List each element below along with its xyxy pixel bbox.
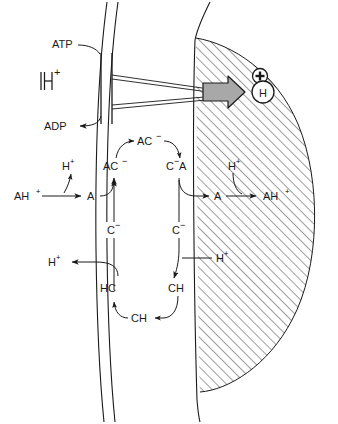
inside-proton-charge: + [236, 157, 241, 166]
carrier-left-label: AC − [103, 156, 127, 172]
released-proton-arrow-left [64, 174, 71, 193]
outside-a-label: A [87, 190, 95, 202]
c-minus-right-text: C [172, 224, 180, 236]
bottom-arc-left [114, 302, 128, 318]
hc-left-label: HC [100, 282, 116, 294]
interior-proton-symbol: H [252, 81, 274, 103]
interior-proton-letter: H [259, 87, 267, 99]
c-minus-left-charge: − [115, 220, 120, 230]
bottom-arc-right [163, 296, 178, 318]
ahplus-charge: + [36, 187, 41, 196]
pumped-proton-charge: + [54, 66, 60, 78]
ac-top-charge: − [156, 131, 161, 141]
c-minus-left-text: C [107, 224, 115, 236]
outside-released-proton-label: H + [62, 157, 75, 172]
outside-lower-proton-label: H + [48, 253, 61, 268]
outside-substrate-label: AH + [14, 187, 41, 202]
membrane-transport-diagram: ATP ADP + H AH + A [0, 0, 338, 424]
c-right-text: C [166, 160, 174, 172]
ahplus-text: AH [14, 190, 29, 202]
atp-input-curve [78, 45, 100, 54]
ac-left-charge: − [122, 156, 127, 166]
ac-left-text: AC [103, 160, 118, 172]
adp-label: ADP [44, 120, 67, 132]
c-right-suffix: A [179, 160, 187, 172]
atp-label: ATP [52, 38, 73, 50]
carrier-right-label: C − A [166, 156, 187, 172]
inside-ahplus-text: AH [263, 190, 278, 202]
released-proton-text: H [62, 160, 70, 172]
ch-right-label: CH [168, 282, 184, 294]
diagram-canvas: ATP ADP + H AH + A [0, 0, 338, 424]
lower-taken-proton-charge: + [224, 249, 229, 258]
lower-released-proton-text: H [48, 256, 56, 268]
c-minus-right-charge: − [180, 220, 185, 230]
inside-a-label: A [214, 190, 222, 202]
lower-carrier-right-label: C − [170, 220, 192, 238]
lower-carrier-left-label: C − [105, 220, 127, 238]
pumped-proton-label: + [41, 66, 60, 90]
lower-taken-proton-text: H [216, 252, 224, 264]
carrier-top-label: AC − [137, 131, 161, 147]
ac-top-text: AC [137, 135, 152, 147]
inside-proton-text: H [228, 160, 236, 172]
released-proton-charge: + [70, 157, 75, 166]
inside-ahplus-charge: + [285, 187, 290, 196]
ch-protonation-arrow [174, 250, 179, 278]
ch-bottom-label: CH [131, 312, 147, 324]
lower-released-proton-charge: + [56, 253, 61, 262]
